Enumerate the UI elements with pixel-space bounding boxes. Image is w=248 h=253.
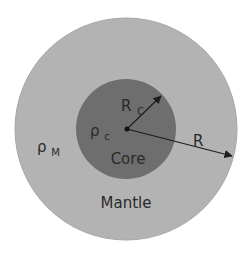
planet-radius-label: R (193, 132, 203, 150)
mantle-label: Mantle (101, 194, 152, 212)
core-mantle-diagram: R C ρ c Core R ρ M Mantle (0, 0, 248, 253)
core-radius-symbol: R (121, 97, 131, 115)
core-density-symbol: ρ (90, 122, 100, 140)
core-density-subscript: c (104, 131, 110, 142)
center-point (125, 127, 130, 132)
core-radius-subscript: C (137, 106, 144, 117)
mantle-density-symbol: ρ (37, 138, 47, 156)
core-label: Core (111, 150, 146, 168)
mantle-density-subscript: M (51, 147, 60, 158)
